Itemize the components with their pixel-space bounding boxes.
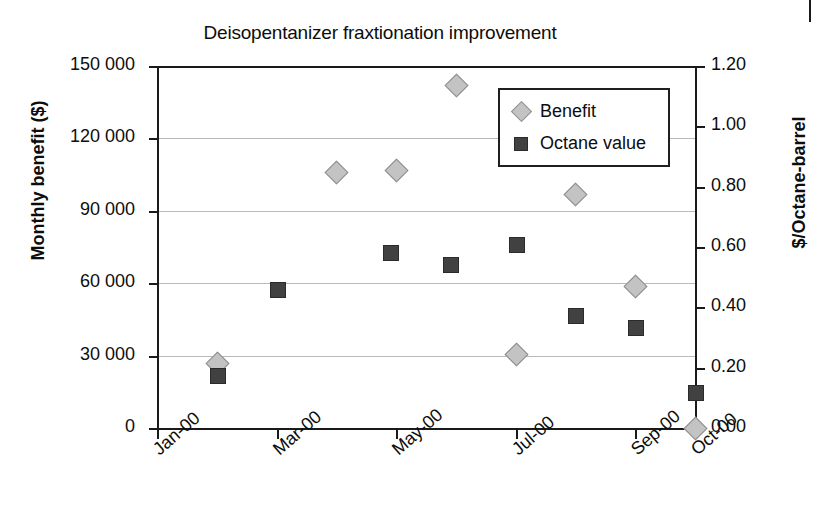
legend-label-benefit: Benefit [540,101,596,122]
y-axis-left-tick-label: 0 [5,416,135,437]
plot-top-border [157,66,697,68]
data-point-benefit [624,274,648,298]
legend-item-octane-value: Octane value [510,128,646,158]
data-point-octane-value [443,257,459,273]
data-point-benefit [325,161,349,185]
y-axis-left-tick [149,66,157,68]
data-point-octane-value [270,282,286,298]
data-point-octane-value [210,368,226,384]
y-axis-right-tick-label: 0.60 [711,235,801,256]
diamond-marker-icon [510,100,536,122]
y-axis-right-tick [696,187,705,189]
y-axis-left-tick [149,428,157,430]
y-axis-left-tick-label: 120 000 [5,126,135,147]
y-axis-right-tick [696,66,705,68]
y-axis-left-tick-label: 90 000 [5,199,135,220]
y-axis-right-tick-label: 1.20 [711,54,801,75]
y-axis-right-tick-label: 1.00 [711,114,801,135]
y-axis-left-tick [149,211,157,213]
y-axis-right-tick [696,126,705,128]
y-axis-right-tick-label: 0.80 [711,175,801,196]
data-point-octane-value [688,385,704,401]
page-corner-mark [809,0,811,22]
y-axis-left-tick-label: 30 000 [5,344,135,365]
chart-figure: Deisopentanizer fraxtionation improvemen… [0,0,829,519]
y-axis-right-tick [696,247,705,249]
legend-label-octane-value: Octane value [540,133,646,154]
data-point-octane-value [568,308,584,324]
y-axis-left-line [157,66,159,430]
chart-title: Deisopentanizer fraxtionation improvemen… [100,22,660,44]
data-point-benefit [444,74,468,98]
y-axis-right-tick-label: 0.20 [711,356,801,377]
data-point-octane-value [628,320,644,336]
gridline-horizontal [157,211,695,212]
y-axis-right-tick-label: 0.40 [711,295,801,316]
y-axis-left-tick-label: 60 000 [5,271,135,292]
y-axis-right-tick [696,368,705,370]
data-point-benefit [385,158,409,182]
data-point-benefit [504,343,528,367]
y-axis-left-tick [149,283,157,285]
gridline-horizontal [157,283,695,284]
y-axis-left-tick [149,138,157,140]
y-axis-right-tick [696,307,705,309]
square-marker-icon [510,132,536,154]
chart-legend: Benefit Octane value [498,88,670,167]
data-point-octane-value [509,237,525,253]
data-point-benefit [564,182,588,206]
y-axis-left-tick-label: 150 000 [5,54,135,75]
gridline-horizontal [157,356,695,357]
legend-item-benefit: Benefit [510,96,596,126]
y-axis-left-tick [149,356,157,358]
x-axis-tick-label: Jul-00 [508,412,559,460]
data-point-octane-value [383,245,399,261]
